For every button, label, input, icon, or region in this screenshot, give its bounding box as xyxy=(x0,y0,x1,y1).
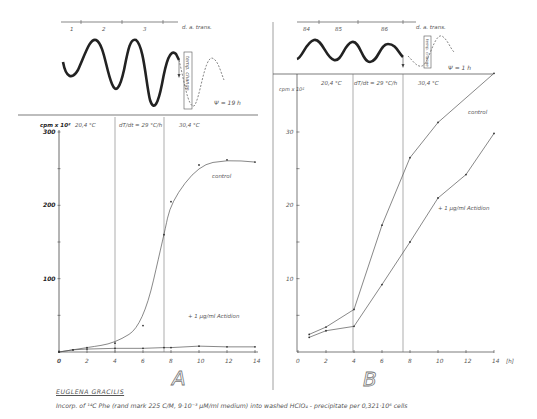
y-tick-label: 10 xyxy=(286,276,294,282)
series-label-actidion: + 1 µg/ml Actidion xyxy=(438,205,490,212)
data-point xyxy=(353,325,355,327)
data-point xyxy=(142,347,144,349)
phase-label: dT/dt = 29 °C/h xyxy=(354,80,398,86)
phase-shift-label: Ψ = 1 h xyxy=(448,64,471,71)
panel-label: B xyxy=(363,367,377,391)
data-point xyxy=(142,325,144,327)
data-point xyxy=(86,348,88,350)
phase-shift-label: Ψ = 19 h xyxy=(214,99,241,106)
rhythm-axis-label: d. a. trans. xyxy=(182,24,212,30)
data-point xyxy=(308,336,310,338)
y-tick-label: 300 xyxy=(43,128,56,135)
x-tick-label: 12 xyxy=(464,358,472,364)
series-line-actidion xyxy=(59,346,255,352)
panel-label: A xyxy=(170,366,186,390)
x-tick-label: 0 xyxy=(57,358,61,364)
x-tick-label: 10 xyxy=(197,358,205,364)
x-tick-label: 4 xyxy=(352,358,356,364)
series-line-control xyxy=(59,161,255,352)
phase-label: 20,4 °C xyxy=(321,80,342,86)
data-point xyxy=(198,164,200,166)
x-axis-unit: [h] xyxy=(506,358,514,364)
data-point xyxy=(381,284,383,286)
x-tick-label: 6 xyxy=(141,358,145,364)
data-point xyxy=(114,342,116,344)
x-tick-label: 10 xyxy=(436,358,444,364)
cycle-label: 85 xyxy=(335,26,342,32)
data-point xyxy=(437,122,439,124)
temp-change-label: temp. change xyxy=(184,56,191,91)
data-point xyxy=(58,351,60,353)
series-label-control: control xyxy=(212,173,232,179)
data-point xyxy=(493,72,495,74)
x-tick-label: 6 xyxy=(380,358,384,364)
data-point xyxy=(325,330,327,332)
x-tick-label: 2 xyxy=(324,358,328,364)
data-point xyxy=(226,159,228,161)
data-point xyxy=(409,157,411,159)
cycle-label: 86 xyxy=(381,26,388,32)
x-tick-label: 2 xyxy=(85,358,89,364)
data-point xyxy=(437,197,439,199)
x-tick-label: 14 xyxy=(253,358,261,364)
series-label-control: control xyxy=(468,109,488,115)
phase-label: 20,4 °C xyxy=(75,122,96,128)
data-point xyxy=(170,201,172,203)
data-point xyxy=(170,347,172,349)
data-point xyxy=(114,347,116,349)
cycle-label: 2 xyxy=(102,26,106,32)
rhythm-axis-label: d. a. trans. xyxy=(416,24,446,30)
y-tick-label: 200 xyxy=(43,201,56,208)
y-tick-label: 100 xyxy=(43,275,56,282)
phase-label: dT/dt = 29 °C/h xyxy=(119,122,163,128)
data-point xyxy=(493,133,495,135)
data-point xyxy=(163,234,165,236)
data-point xyxy=(409,241,411,243)
y-axis-label: cpm x 10² xyxy=(279,86,304,93)
series-line-actidion xyxy=(309,133,494,337)
panel-b: 84 85 86 d. a. trans. temp. change Ψ = 1… xyxy=(273,20,514,391)
data-point xyxy=(381,224,383,226)
x-tick-label: 12 xyxy=(225,358,233,364)
data-point xyxy=(72,349,74,351)
series-line-control xyxy=(309,73,494,334)
panel-a: 1 2 3 d. a. trans. temp. change Ψ = 19 h… xyxy=(18,20,261,390)
data-point xyxy=(353,309,355,311)
y-tick-label: 20 xyxy=(286,202,294,208)
x-tick-label: 0 xyxy=(296,358,300,364)
data-point xyxy=(163,347,165,349)
temp-change-label: temp. change xyxy=(425,39,430,67)
data-point xyxy=(465,174,467,176)
data-point xyxy=(226,346,228,348)
series-label-actidion: + 1 µg/ml Actidion xyxy=(188,313,240,320)
caption-title: EUGLENA GRACILIS xyxy=(56,388,124,395)
data-point xyxy=(254,346,256,348)
data-point xyxy=(325,326,327,328)
cycle-label: 1 xyxy=(70,26,74,32)
rhythm-wave xyxy=(297,40,403,62)
figure-canvas: 1 2 3 d. a. trans. temp. change Ψ = 19 h… xyxy=(0,0,537,419)
y-tick-label: 30 xyxy=(286,129,294,135)
x-tick-label: 8 xyxy=(408,358,412,364)
x-tick-label: 14 xyxy=(492,358,500,364)
x-tick-label: 8 xyxy=(169,358,173,364)
cycle-label: 3 xyxy=(143,26,147,32)
rhythm-wave xyxy=(63,40,179,106)
data-point xyxy=(308,334,310,336)
data-point xyxy=(198,345,200,347)
caption-text: Incorp. of ¹⁴C Phe (rand mark 225 C/M, 9… xyxy=(56,402,408,409)
phase-label: 30,4 °C xyxy=(418,80,439,86)
phase-label: 30,4 °C xyxy=(179,122,200,128)
cycle-label: 84 xyxy=(303,26,310,32)
x-tick-label: 4 xyxy=(113,358,117,364)
data-point xyxy=(254,161,256,163)
